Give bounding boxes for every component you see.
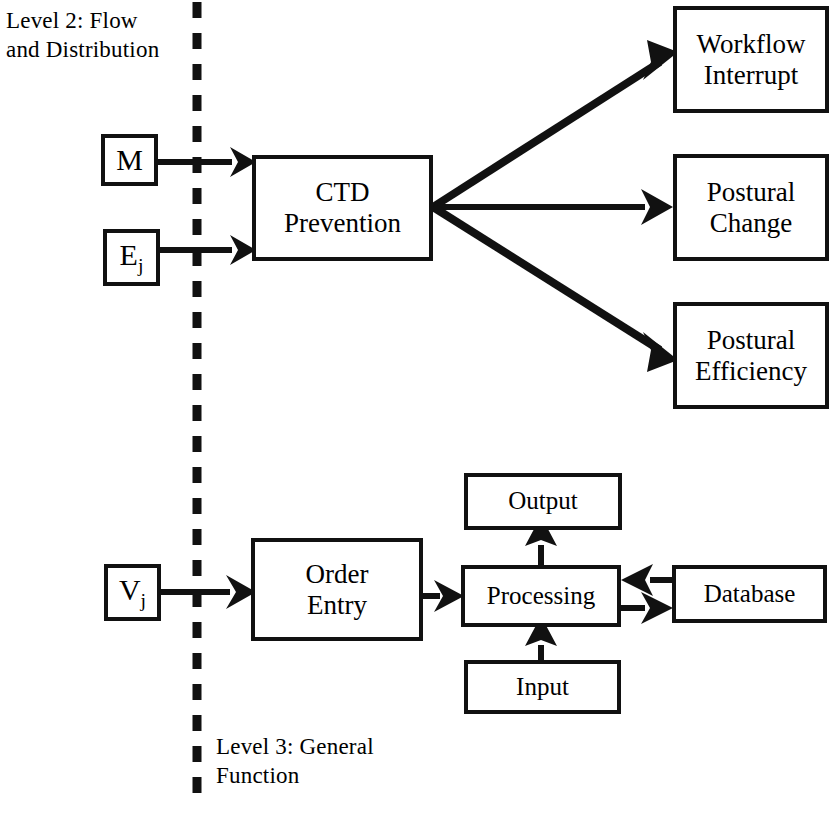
- edge-ctd-to-workflow-interrupt: [433, 40, 678, 207]
- edge-ej-to-ctd: [160, 235, 256, 265]
- edge-order-entry-to-processing: [423, 580, 464, 612]
- node-postural-efficiency[interactable]: Postural Efficiency: [673, 302, 829, 409]
- diagram-canvas: Level 2: Flow and Distribution Level 3: …: [0, 0, 838, 813]
- node-database-label: Database: [700, 580, 800, 609]
- edge-m-to-ctd: [158, 147, 256, 177]
- node-vj-label: Vj: [115, 573, 150, 611]
- node-input[interactable]: Input: [464, 660, 621, 714]
- node-input-label: Input: [512, 673, 573, 702]
- node-postural-efficiency-label: Postural Efficiency: [691, 325, 811, 387]
- edge-vj-to-order-entry: [160, 575, 256, 609]
- node-ctd-prevention[interactable]: CTD Prevention: [252, 155, 433, 261]
- node-workflow-interrupt-label: Workflow Interrupt: [693, 29, 810, 91]
- node-database[interactable]: Database: [672, 565, 827, 623]
- node-postural-change[interactable]: Postural Change: [673, 154, 829, 261]
- node-m-label: M: [112, 143, 147, 177]
- node-processing-label: Processing: [483, 582, 599, 611]
- edge-processing-to-database: [621, 592, 673, 624]
- node-ctd-prevention-label: CTD Prevention: [280, 177, 405, 239]
- node-workflow-interrupt[interactable]: Workflow Interrupt: [673, 6, 829, 113]
- node-output-label: Output: [504, 487, 581, 516]
- level-3-zone-label: Level 3: General Function: [216, 732, 374, 791]
- node-order-entry-label: Order Entry: [302, 559, 373, 621]
- node-postural-change-label: Postural Change: [703, 177, 800, 239]
- node-m[interactable]: M: [101, 134, 158, 186]
- node-ej[interactable]: Ej: [103, 229, 160, 286]
- node-order-entry[interactable]: Order Entry: [251, 538, 423, 641]
- node-output[interactable]: Output: [464, 473, 622, 530]
- edge-database-to-processing: [621, 564, 672, 596]
- node-vj[interactable]: Vj: [104, 564, 161, 621]
- edge-ctd-to-postural-change: [433, 189, 673, 225]
- node-ej-label: Ej: [116, 238, 148, 276]
- node-processing[interactable]: Processing: [461, 565, 621, 627]
- edge-ctd-to-postural-efficiency: [433, 207, 678, 372]
- level-2-zone-label: Level 2: Flow and Distribution: [6, 6, 159, 65]
